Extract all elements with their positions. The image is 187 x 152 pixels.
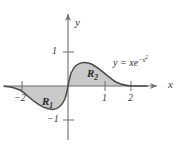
region-label-r2-subscript: 2 xyxy=(94,73,98,82)
equation-base: xe xyxy=(129,57,138,68)
equation-exponent-power: 2 xyxy=(145,54,148,60)
region-label-r1: R1 xyxy=(42,95,53,110)
figure-container: x y −2 1 2 1 −1 R1 R2 y = xe−x2 xyxy=(0,0,187,152)
y-tick-label-1: 1 xyxy=(52,45,57,56)
region-label-r2: R2 xyxy=(87,67,98,82)
equation-lhs: y = xyxy=(113,57,127,68)
region-label-r1-subscript: 1 xyxy=(49,101,53,110)
curve-equation-label: y = xe−x2 xyxy=(113,54,148,68)
x-tick-label-2: 2 xyxy=(128,92,133,103)
x-axis-label: x xyxy=(168,78,173,90)
y-tick-label-minus1: −1 xyxy=(47,113,59,124)
y-axis-label: y xyxy=(75,16,80,28)
x-tick-label-minus2: −2 xyxy=(14,92,26,103)
x-tick-label-1: 1 xyxy=(102,92,107,103)
equation-exponent: −x2 xyxy=(138,56,148,63)
